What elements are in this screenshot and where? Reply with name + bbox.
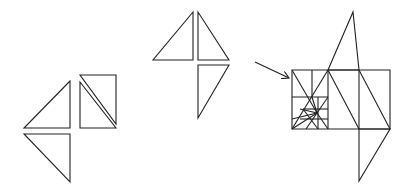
subdivision-line — [317, 113, 328, 129]
dissection-diagram — [0, 0, 410, 196]
subdivision-line — [359, 70, 390, 129]
subdivision-line — [292, 113, 317, 129]
arrow-icon — [255, 62, 289, 78]
shape-polygon — [80, 82, 116, 128]
shape-polygon — [24, 81, 70, 128]
middle-figure-group — [153, 12, 229, 118]
diagram-canvas — [0, 0, 410, 196]
shape-polygon — [24, 134, 70, 182]
shape-polygon — [328, 12, 359, 70]
left-figure-group — [24, 75, 116, 182]
subdivision-line — [317, 97, 328, 113]
subdivision-line — [328, 70, 359, 129]
right-figure-group — [292, 12, 390, 181]
shape-polygon — [198, 12, 229, 60]
subdivision-line — [292, 70, 317, 113]
shape-polygon — [80, 75, 116, 124]
shape-polygon — [198, 65, 229, 118]
shape-polygon — [153, 12, 193, 60]
shape-polygon — [359, 129, 390, 181]
